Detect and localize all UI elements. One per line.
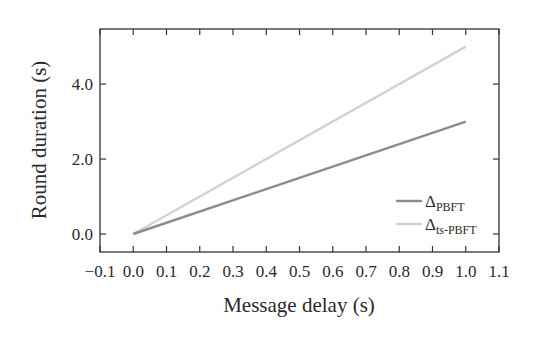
series-line	[133, 122, 466, 234]
series-line	[133, 47, 466, 234]
y-tick-label: 2.0	[72, 150, 93, 169]
legend: ΔPBFTΔts-PBFT	[396, 192, 477, 237]
y-axis-label: Round duration (s)	[27, 61, 51, 220]
legend-label: ΔPBFT	[425, 192, 465, 214]
x-tick-label: 0.7	[355, 262, 377, 281]
line-chart: −0.10.00.10.20.30.40.50.60.70.80.91.01.1…	[0, 0, 534, 350]
x-axis-label: Message delay (s)	[223, 293, 375, 317]
x-axis-ticks: −0.10.00.10.20.30.40.50.60.70.80.91.01.1	[85, 29, 510, 281]
x-tick-label: 0.5	[289, 262, 310, 281]
y-tick-label: 4.0	[72, 75, 93, 94]
x-tick-label: 0.6	[322, 262, 343, 281]
x-tick-label: 1.0	[455, 262, 476, 281]
series-layer	[133, 47, 466, 234]
x-tick-label: 0.0	[123, 262, 144, 281]
x-tick-label: 0.3	[222, 262, 243, 281]
x-tick-label: 0.1	[156, 262, 177, 281]
y-tick-label: 0.0	[72, 225, 93, 244]
x-tick-label: 0.9	[422, 262, 443, 281]
x-tick-label: 0.8	[389, 262, 410, 281]
x-tick-label: 1.1	[488, 262, 509, 281]
x-tick-label: 0.2	[189, 262, 210, 281]
x-tick-label: 0.4	[256, 262, 278, 281]
x-tick-label: −0.1	[85, 262, 116, 281]
legend-label: Δts-PBFT	[425, 215, 477, 237]
